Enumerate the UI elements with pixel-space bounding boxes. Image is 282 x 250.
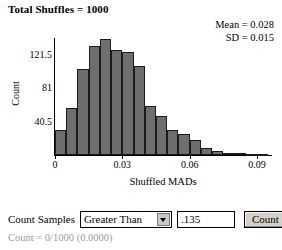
histogram-bar xyxy=(212,151,223,155)
histogram-bar xyxy=(111,50,122,155)
histogram-bar xyxy=(201,148,212,155)
histogram-bar xyxy=(178,134,189,155)
count-result-text: Count = 0/1000 (0.0000) xyxy=(8,232,113,243)
histogram-bar xyxy=(190,140,201,155)
comparison-select-value: Greater Than xyxy=(84,213,142,225)
histogram-bar xyxy=(246,154,257,156)
histogram-bar xyxy=(100,39,111,155)
histogram-chart: Count Shuffled MADs 40.581121.5 00.030.0… xyxy=(0,0,282,200)
shuffle-histogram-panel: Total Shuffles = 1000 Mean = 0.028 SD = … xyxy=(0,0,282,250)
count-button[interactable]: Count xyxy=(244,211,282,228)
histogram-bar xyxy=(257,154,268,156)
count-samples-label: Count Samples xyxy=(8,213,75,225)
histogram-bar xyxy=(122,52,133,155)
threshold-input[interactable]: .135 xyxy=(177,211,235,228)
histogram-bar xyxy=(66,108,77,155)
histogram-bars xyxy=(0,0,282,200)
histogram-bar xyxy=(55,130,66,155)
histogram-bar xyxy=(223,153,234,155)
histogram-bar xyxy=(77,69,88,155)
chevron-down-icon[interactable] xyxy=(157,213,170,226)
histogram-bar xyxy=(167,130,178,155)
histogram-bar xyxy=(89,46,100,155)
comparison-select[interactable]: Greater Than xyxy=(80,211,172,228)
count-samples-controls: Count Samples Greater Than .135 Count xyxy=(8,210,282,228)
histogram-bar xyxy=(156,116,167,155)
histogram-bar xyxy=(235,153,246,155)
histogram-bar xyxy=(145,106,156,155)
histogram-bar xyxy=(134,66,145,155)
